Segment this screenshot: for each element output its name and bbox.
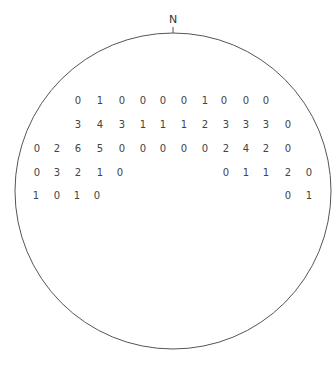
count-cell: 6	[75, 143, 81, 154]
count-cell: 4	[97, 119, 103, 130]
count-cell: 0	[75, 95, 81, 106]
count-cell: 0	[285, 143, 291, 154]
count-cell: 0	[306, 167, 312, 178]
count-cell: 0	[119, 95, 125, 106]
north-label: N	[169, 13, 177, 26]
count-cell: 3	[75, 119, 81, 130]
count-cell: 3	[223, 119, 229, 130]
count-cell: 0	[243, 95, 249, 106]
count-cell: 0	[181, 95, 187, 106]
count-cell: 2	[285, 167, 291, 178]
count-cell: 2	[54, 143, 60, 154]
count-cell: 0	[160, 95, 166, 106]
count-cell: 2	[223, 143, 229, 154]
count-cell: 0	[140, 143, 146, 154]
count-cell: 0	[223, 167, 229, 178]
count-cell: 0	[94, 190, 100, 201]
count-cell: 0	[140, 95, 146, 106]
count-cell: 3	[119, 119, 125, 130]
count-cell: 1	[181, 119, 187, 130]
count-cell: 0	[181, 143, 187, 154]
count-cell: 0	[221, 95, 227, 106]
count-cell: 1	[263, 167, 269, 178]
count-cell: 2	[263, 143, 269, 154]
stereonet-circle	[0, 0, 335, 365]
count-cell: 1	[306, 190, 312, 201]
count-cell: 0	[285, 190, 291, 201]
count-cell: 2	[75, 167, 81, 178]
count-cell: 5	[97, 143, 103, 154]
count-cell: 1	[243, 167, 249, 178]
count-cell: 1	[74, 190, 80, 201]
count-cell: 0	[202, 143, 208, 154]
count-cell: 1	[160, 119, 166, 130]
count-cell: 3	[243, 119, 249, 130]
count-cell: 0	[285, 119, 291, 130]
count-cell: 0	[54, 190, 60, 201]
count-cell: 1	[202, 95, 208, 106]
count-cell: 0	[117, 167, 123, 178]
count-cell: 3	[54, 167, 60, 178]
count-cell: 1	[97, 95, 103, 106]
count-cell: 3	[263, 119, 269, 130]
count-cell: 1	[140, 119, 146, 130]
count-cell: 0	[34, 143, 40, 154]
count-cell: 2	[202, 119, 208, 130]
count-cell: 4	[243, 143, 249, 154]
count-cell: 0	[34, 167, 40, 178]
count-cell: 0	[160, 143, 166, 154]
count-cell: 1	[97, 167, 103, 178]
count-cell: 0	[119, 143, 125, 154]
count-cell: 0	[263, 95, 269, 106]
count-cell: 1	[33, 190, 39, 201]
